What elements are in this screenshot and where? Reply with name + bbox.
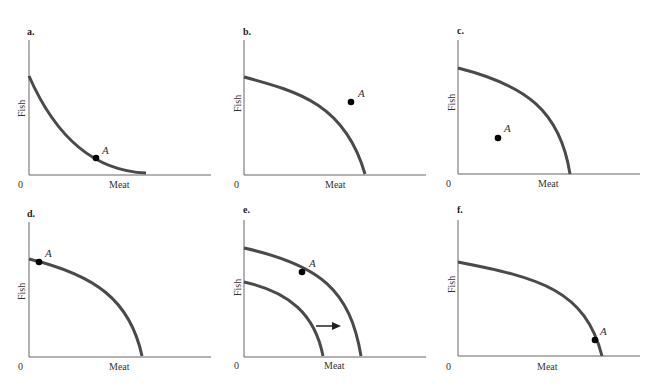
y-axis-label: Fish	[16, 283, 27, 300]
ppf-curve-shifted	[244, 248, 361, 356]
y-axis-label: Fish	[232, 279, 243, 296]
ppf-chart	[0, 0, 220, 195]
ppf-curve	[458, 68, 570, 174]
point-label: A	[358, 87, 365, 99]
point-a	[348, 99, 355, 106]
x-axis-label: Meat	[325, 179, 346, 190]
ppf-chart	[0, 190, 220, 387]
point-a	[495, 135, 502, 142]
origin-label: 0	[446, 361, 451, 372]
ppf-chart	[440, 190, 658, 387]
x-axis-label: Meat	[109, 361, 130, 372]
panel-a: a. A Fish Meat 0	[0, 0, 220, 195]
ppf-curve	[244, 77, 365, 174]
origin-label: 0	[234, 179, 239, 190]
point-label: A	[504, 122, 511, 134]
point-label: A	[45, 247, 52, 259]
y-axis-label: Fish	[446, 276, 457, 293]
point-a	[93, 155, 100, 162]
ppf-curve	[29, 259, 142, 356]
ppf-curve-original	[244, 282, 323, 356]
ppf-chart	[440, 0, 658, 195]
ppf-chart	[220, 190, 440, 387]
point-a	[36, 259, 43, 266]
ppf-curve	[29, 76, 146, 173]
origin-label: 0	[18, 361, 23, 372]
point-label: A	[600, 325, 607, 337]
panel-c: c. A Fish Meat 0	[440, 0, 658, 195]
ppf-curve	[458, 262, 602, 356]
x-axis-label: Meat	[324, 360, 345, 371]
origin-label: 0	[234, 360, 239, 371]
panel-e: e. A Fish Meat 0	[220, 190, 440, 387]
x-axis-label: Meat	[538, 178, 559, 189]
x-axis-label: Meat	[537, 361, 558, 372]
y-axis-label: Fish	[16, 100, 27, 117]
panel-f: f. A Fish Meat 0	[440, 190, 658, 387]
panel-d: d. A Fish Meat 0	[0, 190, 220, 387]
point-a	[299, 269, 306, 276]
point-label: A	[102, 144, 109, 156]
panel-b: b. A Fish Meat 0	[220, 0, 440, 195]
arrow-head-icon	[332, 322, 341, 330]
point-label: A	[309, 257, 316, 269]
origin-label: 0	[18, 179, 23, 190]
origin-label: 0	[446, 178, 451, 189]
ppf-chart	[220, 0, 440, 195]
y-axis-label: Fish	[446, 94, 457, 111]
y-axis-label: Fish	[232, 95, 243, 112]
point-a	[592, 337, 599, 344]
x-axis-label: Meat	[109, 179, 130, 190]
